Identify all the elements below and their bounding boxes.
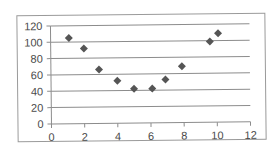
data-point-diamond-icon [161, 75, 169, 83]
gridline-y [51, 73, 250, 75]
y-tick-label: 100 [24, 36, 42, 48]
y-tick-label: 40 [31, 85, 43, 97]
data-point-diamond-icon [130, 85, 138, 93]
data-point-diamond-icon [148, 85, 156, 93]
data-point-diamond-icon [178, 62, 186, 70]
x-tick-label: 8 [181, 130, 187, 142]
data-point-diamond-icon [206, 37, 214, 45]
x-tick-label: 10 [211, 129, 223, 141]
x-tick-label: 4 [115, 130, 121, 142]
y-tick-label: 120 [24, 20, 42, 32]
x-tick-label: 2 [82, 131, 88, 143]
gridline-y [50, 24, 249, 26]
x-tick-label: 12 [244, 129, 256, 141]
data-point-diamond-icon [80, 44, 88, 52]
y-tick-label: 20 [31, 102, 43, 114]
y-tick-label: 80 [30, 53, 42, 65]
x-tick-label: 0 [48, 131, 54, 143]
y-tick-label: 60 [31, 69, 43, 81]
gridline-y [51, 40, 250, 42]
gridline-y [51, 106, 250, 108]
data-point-diamond-icon [95, 66, 103, 74]
y-tick-label: 0 [37, 118, 43, 130]
y-axis-line [50, 26, 51, 124]
chart-frame: 020406080100120024681012 [16, 13, 266, 143]
x-tick-label: 6 [148, 130, 154, 142]
data-point-diamond-icon [214, 29, 222, 37]
gridline-y [51, 57, 250, 59]
data-point-diamond-icon [65, 34, 73, 42]
scatter-plot: 020406080100120024681012 [17, 14, 267, 144]
data-point-diamond-icon [113, 77, 121, 85]
